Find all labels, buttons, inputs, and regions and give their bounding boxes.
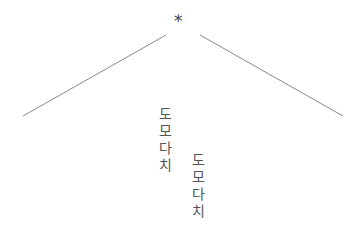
char: 치 <box>159 157 172 174</box>
roof-lines <box>0 0 362 245</box>
char: 도 <box>192 152 205 169</box>
left-slope-line <box>23 35 166 116</box>
asterisk-mark: * <box>174 13 183 30</box>
figure-canvas: * 도 모 다 치 도 모 다 치 <box>0 0 362 245</box>
vertical-text-column-2: 도 모 다 치 <box>190 152 206 220</box>
right-slope-line <box>200 35 343 116</box>
char: 모 <box>192 169 205 186</box>
char: 모 <box>159 123 172 140</box>
char: 다 <box>192 186 205 203</box>
char: 다 <box>159 140 172 157</box>
char: 치 <box>192 203 205 220</box>
vertical-text-column-1: 도 모 다 치 <box>157 106 173 174</box>
char: 도 <box>159 106 172 123</box>
